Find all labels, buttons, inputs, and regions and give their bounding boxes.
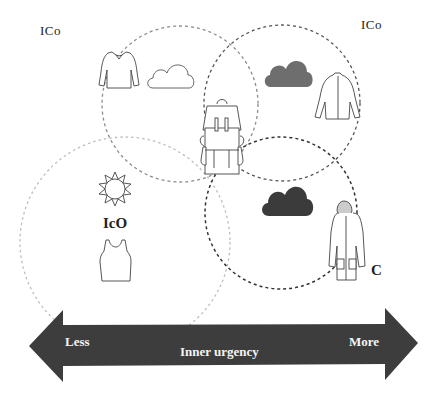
cloud-grey-icon: [265, 61, 313, 87]
arrow-label-center: Inner urgency: [180, 344, 259, 360]
label-top-left: ICo: [40, 23, 61, 39]
jacket-icon: [315, 73, 360, 119]
label-top-right: ICo: [361, 17, 382, 33]
sun-icon: [99, 172, 131, 206]
label-center-left: IcO: [103, 215, 127, 232]
tank-top-icon: [100, 240, 131, 281]
cloud-dark-icon: [262, 187, 313, 216]
raincoat-icon: [329, 201, 365, 280]
backpack-icon: [200, 100, 244, 175]
arrow-label-more: More: [349, 334, 379, 350]
label-bottom-right: C: [371, 262, 382, 279]
arrow-label-less: Less: [65, 334, 90, 350]
cloud-outline-icon: [148, 65, 194, 88]
sweater-icon: [99, 52, 139, 88]
